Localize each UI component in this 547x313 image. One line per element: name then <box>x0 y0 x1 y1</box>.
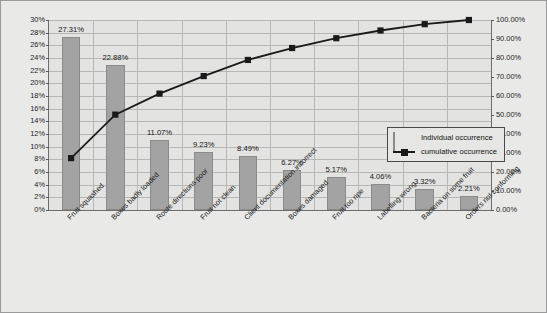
cumulative-data-marker <box>377 27 383 33</box>
left-axis-tick-label: 6% <box>34 168 45 175</box>
left-axis-tick-label: 30% <box>30 16 45 23</box>
cumulative-data-marker <box>68 155 74 161</box>
left-axis-tick-label: 24% <box>30 54 45 61</box>
bar-value-label: 11.07% <box>147 129 172 137</box>
bar-value-label: 27.31% <box>58 26 84 34</box>
left-axis-tick-label: 26% <box>30 42 45 49</box>
right-axis-tick-label: 60.00% <box>496 92 521 99</box>
plot-area: 0%2%4%6%8%10%12%14%16%18%20%22%24%26%28%… <box>48 20 492 211</box>
cumulative-data-marker <box>422 21 428 27</box>
legend-item-cumulative-occurrence: cumulative occurrence <box>393 146 497 157</box>
line-marker-icon <box>393 147 415 156</box>
left-axis-tick-label: 14% <box>30 118 45 125</box>
left-axis-tick-label: 0% <box>34 206 45 213</box>
right-axis-tick-mark <box>491 20 494 21</box>
chart-legend: Individual occurrence cumulative occurre… <box>387 127 505 162</box>
bar-value-label: 2.21% <box>458 185 480 193</box>
right-axis-tick-label: 50.00% <box>496 111 521 118</box>
pareto-chart: 0%2%4%6%8%10%12%14%16%18%20%22%24%26%28%… <box>0 0 547 313</box>
bar-swatch-icon <box>393 133 415 142</box>
legend-item-individual-occurrence: Individual occurrence <box>393 132 497 143</box>
left-axis-tick-mark <box>46 210 49 211</box>
cumulative-data-marker <box>333 35 339 41</box>
bar-value-label: 5.17% <box>326 166 348 174</box>
right-axis-tick-mark <box>491 210 494 211</box>
left-axis-tick-label: 2% <box>34 194 45 201</box>
cumulative-data-marker <box>112 112 118 118</box>
cumulative-data-marker <box>156 91 162 97</box>
bar-value-label: 8.49% <box>237 145 259 153</box>
legend-label-cumulative: cumulative occurrence <box>421 147 497 156</box>
left-axis-tick-label: 22% <box>30 67 45 74</box>
bar-value-label: 22.88% <box>102 54 128 62</box>
right-axis-tick-mark <box>491 115 494 116</box>
cumulative-data-marker <box>289 45 295 51</box>
right-axis-tick-mark <box>491 58 494 59</box>
right-axis-tick-label: 80.00% <box>496 54 521 61</box>
right-axis-tick-label: 100.00% <box>496 16 525 23</box>
right-axis-tick-label: 70.00% <box>496 73 521 80</box>
left-axis-tick-label: 18% <box>30 92 45 99</box>
right-axis-tick-mark <box>491 96 494 97</box>
right-axis-tick-label: 90.00% <box>496 35 521 42</box>
left-axis-tick-label: 16% <box>30 105 45 112</box>
left-axis-tick-label: 10% <box>30 143 45 150</box>
left-axis-tick-label: 12% <box>30 130 45 137</box>
bar-value-label: 4.06% <box>370 173 392 181</box>
right-axis-tick-label: 0.00% <box>496 206 517 213</box>
right-axis-tick-mark <box>491 172 494 173</box>
right-axis-tick-mark <box>491 77 494 78</box>
cumulative-data-marker <box>466 17 472 23</box>
bar-value-label: 9.23% <box>193 141 215 149</box>
legend-label-individual: Individual occurrence <box>421 133 493 142</box>
right-axis-tick-mark <box>491 39 494 40</box>
left-axis-tick-label: 20% <box>30 80 45 87</box>
cumulative-data-marker <box>245 57 251 63</box>
cumulative-data-marker <box>201 73 207 79</box>
category-axis-labels: Fruit squashedBoxes badly loadedRoute di… <box>48 214 492 312</box>
left-axis-tick-label: 8% <box>34 156 45 163</box>
left-axis-tick-label: 28% <box>30 29 45 36</box>
left-axis-tick-label: 4% <box>34 181 45 188</box>
